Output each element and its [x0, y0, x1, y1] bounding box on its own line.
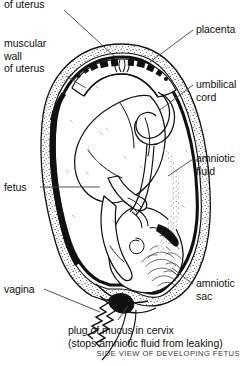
label-top-uterus: of uterus — [4, 0, 44, 11]
label-placenta: placenta — [196, 23, 235, 36]
label-muscular-wall-of-uterus: muscular wall of uterus — [4, 37, 46, 75]
label-mucus-plug: plug of mucus in cervix (stops amniotic … — [68, 324, 223, 349]
label-fetus: fetus — [4, 181, 27, 194]
label-amniotic-sac: amniotic sac — [196, 277, 235, 302]
label-amniotic-fluid: amniotic fluid — [196, 152, 235, 177]
label-vagina: vagina — [4, 283, 35, 296]
label-umbilical-cord: umbilical cord — [196, 78, 236, 103]
mucus-plug — [109, 294, 134, 314]
figure-caption: SIDE VIEW OF DEVELOPING FETUS — [0, 349, 240, 358]
